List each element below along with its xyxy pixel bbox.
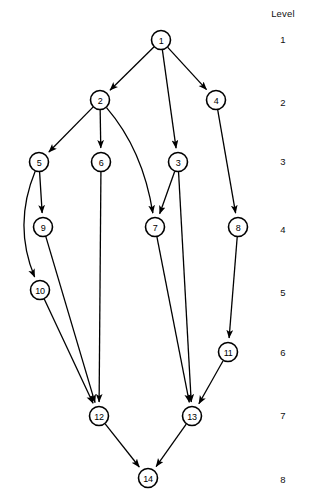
level-tick-7: 7 (255, 410, 311, 421)
node-label: 11 (224, 348, 233, 358)
node-label: 3 (176, 158, 181, 168)
level-axis-title: Level (255, 8, 311, 19)
graph-node-6[interactable]: 6 (92, 153, 111, 172)
node-label: 1 (159, 36, 164, 46)
nodes-layer: 1245639781011121314 (30, 31, 248, 488)
level-tick-5: 5 (255, 287, 311, 298)
graph-node-13[interactable]: 13 (183, 407, 202, 426)
graph-edge (156, 424, 186, 466)
level-axis: Level 12345678 (255, 0, 311, 498)
node-label: 13 (187, 412, 197, 422)
node-label: 6 (99, 158, 104, 168)
graph-edge (49, 107, 93, 152)
level-tick-6: 6 (255, 347, 311, 358)
level-tick-8: 8 (255, 474, 311, 485)
node-label: 4 (214, 96, 219, 106)
graph-diagram: 1245639781011121314 Level 12345678 (0, 0, 317, 498)
graph-node-5[interactable]: 5 (30, 153, 49, 172)
node-label: 10 (35, 286, 45, 296)
graph-edge (40, 172, 43, 213)
level-tick-4: 4 (255, 224, 311, 235)
graph-edge (199, 361, 223, 404)
graph-edge (100, 110, 101, 148)
node-label: 14 (143, 474, 153, 484)
node-label: 5 (37, 158, 42, 168)
edges-layer (24, 47, 237, 467)
graph-edge (168, 47, 207, 89)
graph-node-2[interactable]: 2 (91, 91, 110, 110)
node-label: 7 (153, 223, 158, 233)
graph-node-11[interactable]: 11 (219, 343, 238, 362)
node-label: 9 (41, 223, 46, 233)
level-tick-2: 2 (255, 97, 311, 108)
graph-edge (110, 47, 154, 90)
graph-edge (99, 172, 101, 402)
node-label: 8 (236, 223, 241, 233)
graph-node-14[interactable]: 14 (139, 469, 158, 488)
level-tick-1: 1 (255, 34, 311, 45)
node-label: 12 (94, 412, 104, 422)
graph-edge (160, 171, 175, 213)
level-tick-3: 3 (255, 156, 311, 167)
graph-edge (179, 172, 192, 402)
graph-edge (218, 110, 236, 213)
graph-node-9[interactable]: 9 (34, 218, 53, 237)
graph-edge (105, 424, 139, 467)
node-label: 2 (98, 96, 103, 106)
graph-edge (107, 108, 153, 214)
graph-node-8[interactable]: 8 (229, 218, 248, 237)
graph-node-12[interactable]: 12 (90, 407, 109, 426)
graph-node-4[interactable]: 4 (207, 91, 226, 110)
graph-edge (229, 237, 237, 338)
graph-edge (157, 237, 189, 402)
graph-node-10[interactable]: 10 (31, 281, 50, 300)
graph-node-7[interactable]: 7 (146, 218, 165, 237)
graph-node-1[interactable]: 1 (152, 31, 171, 50)
graph-edge (162, 50, 176, 148)
graph-node-3[interactable]: 3 (169, 153, 188, 172)
